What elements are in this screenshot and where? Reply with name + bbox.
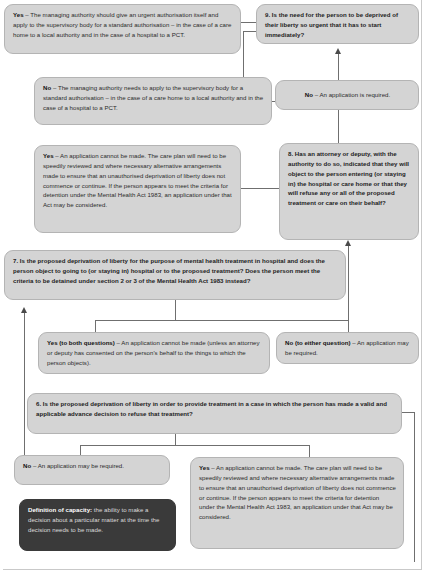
connector-q6-no-drop bbox=[80, 445, 81, 455]
node-q6-no-text: – An application may be required. bbox=[31, 462, 124, 469]
node-q9-yes-text: – The managing authority should give an … bbox=[13, 11, 231, 38]
definition-lead: Definition of capacity: bbox=[28, 506, 92, 513]
node-q8-yes[interactable]: Yes – An application cannot be made. The… bbox=[34, 145, 241, 233]
connector-q8no-to-q9 bbox=[338, 54, 339, 80]
node-q7-text: 7. Is the proposed deprivation of libert… bbox=[13, 257, 325, 284]
connector-q8-yes bbox=[241, 188, 279, 189]
flowchart-page: 9. Is the need for the person to be depr… bbox=[0, 0, 425, 576]
node-q8[interactable]: 8. Has an attorney or deputy, with the a… bbox=[279, 143, 419, 240]
connector-q8-to-q8no bbox=[338, 110, 339, 143]
node-q8-text: 8. Has an attorney or deputy, with the a… bbox=[288, 150, 409, 206]
node-q8-no[interactable]: No – An application is required. bbox=[275, 80, 419, 110]
connector-q7-yes-drop bbox=[95, 320, 96, 332]
node-q6-no[interactable]: No – An application may be required. bbox=[14, 455, 170, 485]
connector-q7no-riser bbox=[348, 246, 349, 330]
connector-q6-yes-drop bbox=[309, 445, 310, 457]
connector-q9-trunk-top bbox=[243, 31, 257, 32]
node-q7-no-lead: No (to either question) bbox=[285, 339, 350, 346]
connector-q6-bus bbox=[80, 445, 309, 446]
connector-into-q6-riser bbox=[414, 412, 415, 562]
connector-into-q6-arm bbox=[402, 412, 414, 413]
node-q9-no[interactable]: No – The managing authority needs to app… bbox=[34, 77, 272, 125]
node-q7-yes[interactable]: Yes (to both questions) – An application… bbox=[38, 332, 270, 374]
node-q9[interactable]: 9. Is the need for the person to be depr… bbox=[256, 4, 419, 44]
connector-q7-no-drop bbox=[348, 320, 349, 332]
node-q9-text: 9. Is the need for the person to be depr… bbox=[265, 11, 398, 38]
node-q9-no-lead: No bbox=[43, 84, 51, 91]
node-q9-yes[interactable]: Yes – The managing authority should give… bbox=[4, 4, 241, 54]
node-q9-no-text: – The managing authority needs to apply … bbox=[43, 84, 263, 111]
node-q8-no-text: – An application is required. bbox=[313, 91, 390, 98]
node-q8-yes-lead: Yes bbox=[43, 152, 54, 159]
node-q8-no-lead: No bbox=[305, 91, 313, 98]
node-q6-no-lead: No bbox=[23, 462, 31, 469]
connector-q6-stem bbox=[175, 434, 176, 445]
arrow-up-into-q8 bbox=[345, 240, 351, 246]
node-q6-yes-lead: Yes bbox=[199, 464, 210, 471]
arrow-up-into-q9 bbox=[335, 48, 341, 54]
node-q6-text: 6. Is the proposed deprivation of libert… bbox=[36, 400, 387, 417]
node-q6[interactable]: 6. Is the proposed deprivation of libert… bbox=[27, 393, 402, 434]
connector-q7-bus bbox=[95, 320, 348, 321]
node-q9-yes-lead: Yes bbox=[13, 11, 24, 18]
node-q8-yes-text: – An application cannot be made. The car… bbox=[43, 152, 232, 208]
connector-q6no-riser bbox=[24, 313, 25, 456]
node-q7[interactable]: 7. Is the proposed deprivation of libert… bbox=[4, 250, 346, 300]
node-q7-no[interactable]: No (to either question) – An application… bbox=[276, 332, 419, 364]
page-frame-bottom bbox=[3, 569, 422, 570]
node-definition-of-capacity: Definition of capacity: the ability to m… bbox=[19, 499, 176, 551]
connector-q7-stem bbox=[175, 300, 176, 320]
arrow-up-into-q7 bbox=[21, 307, 27, 313]
node-q7-yes-lead: Yes (to both questions) bbox=[47, 339, 115, 346]
node-q6-yes[interactable]: Yes – An application cannot be made. The… bbox=[190, 457, 404, 549]
page-frame-right bbox=[421, 0, 422, 570]
node-q6-yes-text: – An application cannot be made. The car… bbox=[199, 464, 396, 520]
